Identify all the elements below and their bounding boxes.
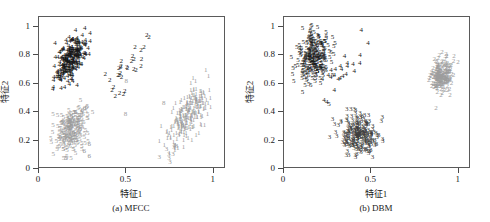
y-tick-label: 0.8 bbox=[264, 49, 275, 59]
x-tick-mark bbox=[38, 168, 39, 173]
scatter-point: 1 bbox=[194, 78, 198, 85]
scatter-point: 2 bbox=[446, 62, 450, 69]
scatter-point: 4 bbox=[69, 36, 73, 43]
scatter-point: 3 bbox=[177, 132, 181, 139]
x-tick-mark bbox=[125, 168, 126, 173]
scatter-point: 4 bbox=[53, 40, 57, 47]
scatter-point: 2 bbox=[113, 92, 117, 99]
scatter-point: 1 bbox=[182, 144, 186, 151]
x-tick-label: 1 bbox=[211, 174, 216, 184]
scatter-point: 4 bbox=[321, 76, 325, 83]
scatter-point: 3 bbox=[367, 112, 371, 119]
x-tick-label: 0 bbox=[36, 174, 41, 184]
scatter-point: 5 bbox=[292, 78, 296, 85]
scatter-point: 5 bbox=[67, 126, 71, 133]
x-tick-mark bbox=[213, 168, 214, 173]
scatter-point: 5 bbox=[56, 111, 60, 118]
y-tick-label: 0.6 bbox=[264, 78, 275, 88]
plot-area-mfcc: 4444444444444444444444444444444444444444… bbox=[38, 16, 225, 168]
scatter-point: 6 bbox=[81, 107, 85, 114]
scatter-point: 4 bbox=[80, 32, 84, 39]
scatter-point: 5 bbox=[91, 109, 95, 116]
y-tick-label: 0.2 bbox=[264, 135, 275, 145]
x-tick-mark bbox=[370, 168, 371, 173]
scatter-point: 2 bbox=[439, 71, 443, 78]
scatter-point: 2 bbox=[103, 70, 107, 77]
scatter-point: 2 bbox=[431, 65, 435, 72]
scatter-point: 4 bbox=[83, 25, 87, 32]
y-tick-label: 1 bbox=[271, 21, 276, 31]
scatter-point: 2 bbox=[452, 53, 456, 60]
scatter-point: 4 bbox=[88, 29, 92, 36]
y-tick-label: 0.2 bbox=[19, 135, 30, 145]
y-tick-label: 0.4 bbox=[264, 106, 275, 116]
y-tick-label: 0.8 bbox=[19, 49, 30, 59]
scatter-point: 1 bbox=[202, 99, 206, 106]
scatter-point: 8 bbox=[162, 99, 166, 106]
scatter-point: 1 bbox=[178, 98, 182, 105]
scatter-point: 3 bbox=[367, 143, 371, 150]
scatter-point: 1 bbox=[171, 104, 175, 111]
x-tick-mark bbox=[458, 168, 459, 173]
y-axis-label-mfcc: 特征2 bbox=[0, 81, 11, 104]
scatter-point: 5 bbox=[51, 121, 55, 128]
scatter-point: 2 bbox=[444, 50, 448, 57]
x-tick-label: 0 bbox=[281, 174, 286, 184]
scatter-point: 3 bbox=[371, 153, 375, 160]
scatter-point: 4 bbox=[332, 86, 336, 93]
scatter-point: 5 bbox=[60, 129, 64, 136]
scatter-point: 6 bbox=[76, 118, 80, 125]
scatter-point: 5 bbox=[307, 55, 311, 62]
y-tick-mark: 0.4 bbox=[278, 111, 283, 112]
scatter-point: 2 bbox=[147, 33, 151, 40]
scatter-point: 2 bbox=[448, 86, 452, 93]
scatter-point: 1 bbox=[196, 99, 200, 106]
scatter-point: 3 bbox=[369, 135, 373, 142]
x-tick-mark bbox=[283, 168, 284, 173]
scatter-point: 5 bbox=[316, 34, 320, 41]
scatter-point: 4 bbox=[56, 70, 60, 77]
scatter-point: 4 bbox=[75, 54, 79, 61]
scatter-point: 6 bbox=[74, 108, 78, 115]
scatter-point: 1 bbox=[207, 72, 211, 79]
scatter-point: 3 bbox=[356, 144, 360, 151]
scatter-point: 3 bbox=[354, 123, 358, 130]
scatter-point: 3 bbox=[335, 132, 339, 139]
scatter-point: 2 bbox=[116, 72, 120, 79]
scatter-point: 2 bbox=[119, 64, 123, 71]
scatter-point: 3 bbox=[380, 113, 384, 120]
scatter-point: 4 bbox=[86, 45, 90, 52]
scatter-point: 1 bbox=[185, 99, 189, 106]
scatter-point: 5 bbox=[301, 66, 305, 73]
scatter-point: 2 bbox=[142, 43, 146, 50]
scatter-point: 5 bbox=[309, 43, 313, 50]
scatter-point: 4 bbox=[345, 62, 349, 69]
y-tick-label: 0.4 bbox=[19, 106, 30, 116]
scatter-point: 6 bbox=[83, 147, 87, 154]
scatter-point: 5 bbox=[320, 42, 324, 49]
scatter-point: 2 bbox=[430, 83, 434, 90]
scatter-point: 3 bbox=[347, 152, 351, 159]
scatter-point: 5 bbox=[332, 50, 336, 57]
scatter-points-dbm: 5555555555555555555555555555555555555555… bbox=[284, 17, 469, 167]
scatter-point: 4 bbox=[360, 26, 364, 33]
scatter-point: 4 bbox=[51, 84, 55, 91]
scatter-point: 3 bbox=[167, 150, 171, 157]
y-tick-mark: 0.2 bbox=[278, 140, 283, 141]
scatter-point: 4 bbox=[68, 53, 72, 60]
scatter-point: 1 bbox=[203, 121, 207, 128]
scatter-point: 5 bbox=[50, 139, 54, 146]
scatter-point: 5 bbox=[294, 62, 298, 69]
scatter-point: 4 bbox=[79, 61, 83, 68]
scatter-point: 1 bbox=[198, 87, 202, 94]
scatter-point: 8 bbox=[124, 78, 128, 85]
scatter-point: 5 bbox=[317, 54, 321, 61]
scatter-points-mfcc: 4444444444444444444444444444444444444444… bbox=[39, 17, 224, 167]
scatter-point: 3 bbox=[363, 137, 367, 144]
plot-area-dbm: 5555555555555555555555555555555555555555… bbox=[283, 16, 470, 168]
scatter-point: 1 bbox=[159, 122, 163, 129]
scatter-point: 4 bbox=[340, 65, 344, 72]
y-tick-label: 0.6 bbox=[19, 78, 30, 88]
scatter-point: 6 bbox=[87, 141, 91, 148]
scatter-point: 3 bbox=[346, 127, 350, 134]
